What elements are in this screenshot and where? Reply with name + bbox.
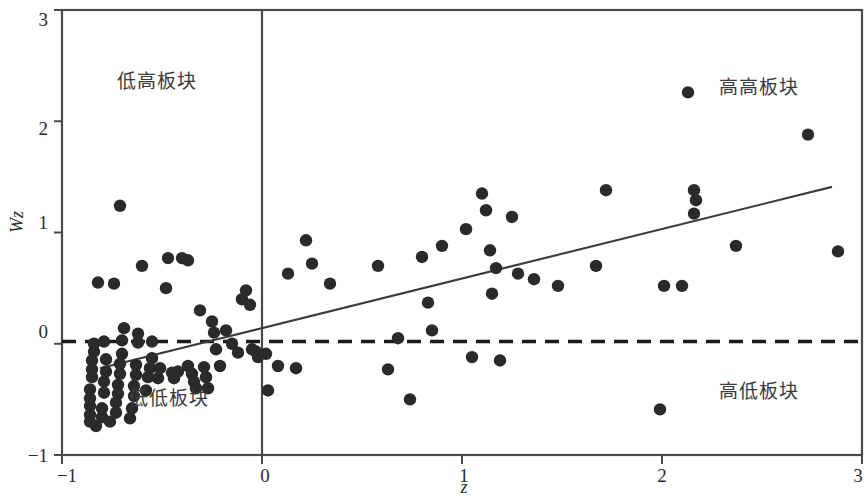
scatter-point xyxy=(476,187,488,199)
scatter-point xyxy=(486,287,498,299)
scatter-point xyxy=(590,260,602,272)
scatter-point xyxy=(422,296,434,308)
scatter-point xyxy=(466,351,478,363)
scatter-point xyxy=(382,363,394,375)
scatter-point xyxy=(98,387,110,399)
scatter-point xyxy=(244,299,256,311)
scatter-point xyxy=(832,245,844,257)
scatter-point xyxy=(132,328,144,340)
scatter-point xyxy=(512,267,524,279)
scatter-point xyxy=(108,277,120,289)
scatter-point xyxy=(324,277,336,289)
quadrant-label-high-low: 高低板块 xyxy=(719,382,799,401)
scatter-point xyxy=(182,254,194,266)
scatter-point xyxy=(392,332,404,344)
scatter-point xyxy=(146,352,158,364)
y-tick-label-3: 3 xyxy=(14,10,48,29)
scatter-point xyxy=(206,315,218,327)
scatter-point xyxy=(506,211,518,223)
scatter-point xyxy=(114,200,126,212)
scatter-point xyxy=(220,324,232,336)
scatter-point xyxy=(494,354,506,366)
scatter-point xyxy=(240,284,252,296)
scatter-point xyxy=(460,223,472,235)
scatter-point xyxy=(160,282,172,294)
scatter-point xyxy=(654,403,666,415)
scatter-point xyxy=(194,304,206,316)
scatter-point xyxy=(416,251,428,263)
scatter-point xyxy=(690,194,702,206)
scatter-point xyxy=(130,359,142,371)
scatter-point xyxy=(98,335,110,347)
scatter-point xyxy=(282,267,294,279)
scatter-point xyxy=(214,360,226,372)
scatter-point xyxy=(528,273,540,285)
scatter-point xyxy=(404,393,416,405)
quadrant-label-high-high: 高高板块 xyxy=(719,78,799,97)
scatter-point xyxy=(552,280,564,292)
scatter-point xyxy=(84,383,96,395)
moran-scatterplot-figure: 3 2 1 0 −1 −1 0 1 2 3 z Wz 低高板块 高高板块 低低板… xyxy=(0,0,867,501)
x-tick-label-2: 2 xyxy=(657,466,667,485)
scatter-point xyxy=(484,244,496,256)
scatter-point xyxy=(100,365,112,377)
scatter-point xyxy=(290,362,302,374)
x-tick-label-3: 3 xyxy=(853,466,863,485)
scatter-point xyxy=(262,384,274,396)
quadrant-label-low-low: 低低板块 xyxy=(129,389,209,408)
scatter-point xyxy=(300,234,312,246)
y-tick-label-2: 2 xyxy=(14,119,48,138)
scatter-point xyxy=(146,335,158,347)
scatter-point xyxy=(600,184,612,196)
scatter-point xyxy=(682,86,694,98)
scatter-point xyxy=(96,402,108,414)
y-tick-label-neg1: −1 xyxy=(9,446,48,465)
x-axis-title: z xyxy=(460,478,467,496)
y-axis-title: Wz xyxy=(8,211,26,233)
scatter-point xyxy=(118,322,130,334)
scatter-point xyxy=(688,207,700,219)
scatter-point xyxy=(154,362,166,374)
y-tick-label-0: 0 xyxy=(14,322,48,341)
scatter-point xyxy=(372,260,384,272)
scatter-point xyxy=(730,240,742,252)
scatter-point xyxy=(200,371,212,383)
scatter-point xyxy=(676,280,688,292)
x-tick-label-0: 0 xyxy=(260,466,270,485)
scatter-point xyxy=(100,353,112,365)
scatter-point xyxy=(802,128,814,140)
scatter-point xyxy=(658,280,670,292)
scatter-point xyxy=(490,262,502,274)
scatter-point xyxy=(232,346,244,358)
scatter-point xyxy=(136,260,148,272)
scatter-point xyxy=(112,379,124,391)
scatter-point xyxy=(260,348,272,360)
scatter-point xyxy=(208,326,220,338)
quadrant-label-low-high: 低高板块 xyxy=(117,72,197,91)
scatter-point xyxy=(116,334,128,346)
scatter-point xyxy=(162,252,174,264)
scatter-point xyxy=(116,348,128,360)
scatter-point xyxy=(480,204,492,216)
scatter-point xyxy=(272,360,284,372)
scatter-point xyxy=(306,257,318,269)
scatter-point xyxy=(426,324,438,336)
x-tick-label-neg1: −1 xyxy=(57,466,77,485)
scatter-point xyxy=(210,343,222,355)
scatter-point xyxy=(436,240,448,252)
scatter-point xyxy=(92,276,104,288)
